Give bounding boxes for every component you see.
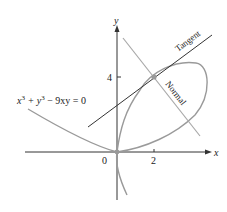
origin-point [115,150,120,155]
folium-diagram: y x 0 2 4 Tangent Normal x3 + y3 − 9xy =… [0,0,227,212]
x-tick-label: 2 [151,155,156,166]
normal-label: Normal [163,79,188,107]
tangent-label: Tangent [173,28,202,54]
equation-label: x3 + y3 − 9xy = 0 [16,94,86,106]
tangent-point [151,74,156,79]
x-axis-label: x [213,147,219,158]
origin-label: 0 [102,155,107,166]
folium-curve [28,63,207,195]
y-axis-label: y [113,15,119,26]
y-tick-label: 4 [107,72,112,83]
y-axis-arrow-icon [115,25,120,32]
x-axis-arrow-icon [205,150,212,155]
